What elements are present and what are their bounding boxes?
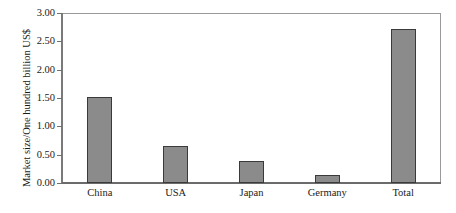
y-axis-tick-mark [57, 183, 62, 184]
x-axis-label-usa: USA [165, 186, 186, 200]
bar-china [87, 97, 112, 183]
y-axis-tick-label: 3.00 [37, 6, 55, 19]
y-axis-tick-mark [57, 41, 62, 42]
bar-usa [163, 146, 188, 183]
x-axis-label-china: China [87, 186, 112, 200]
y-axis-tick-mark [57, 70, 62, 71]
x-axis-label-total: Total [392, 186, 413, 200]
y-axis-title: Market size/One hundred billion US$ [18, 13, 36, 203]
y-axis-tick-label: 1.00 [37, 119, 55, 132]
bar-germany [315, 175, 340, 183]
x-axis-label-japan: Japan [240, 186, 264, 200]
y-axis-tick-mark [57, 126, 62, 127]
x-axis-label-germany: Germany [308, 186, 347, 200]
y-axis-tick-label: 0.00 [37, 176, 55, 189]
bar-japan [239, 161, 264, 183]
bar-total [391, 29, 416, 183]
y-axis-tick-label: 1.50 [37, 91, 55, 104]
y-axis-tick-mark [57, 155, 62, 156]
y-axis-tick-mark [57, 13, 62, 14]
y-axis-tick-label: 2.00 [37, 63, 55, 76]
y-axis-tick-mark [57, 98, 62, 99]
plot-area: 0.000.501.001.502.002.503.00 [62, 13, 441, 183]
y-axis-tick-label: 2.50 [37, 34, 55, 47]
bar-chart: Market size/One hundred billion US$ 0.00… [0, 0, 456, 213]
y-axis-tick-label: 0.50 [37, 148, 55, 161]
